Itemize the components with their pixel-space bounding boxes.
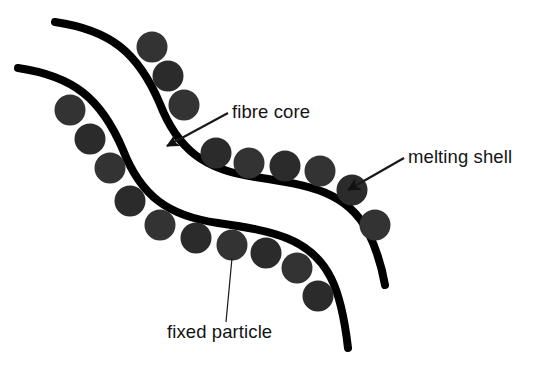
particle-upper-chain	[337, 175, 368, 206]
particle-upper-chain	[305, 156, 336, 187]
particle-upper-chain	[137, 32, 168, 63]
particle-lower-chain	[217, 230, 248, 261]
particle-lower-chain	[181, 223, 212, 254]
figure-canvas: fibre core melting shell fixed particle	[0, 0, 539, 367]
particle-upper-chain	[153, 61, 184, 92]
particle-lower-chain	[115, 186, 146, 217]
label-fibre-core: fibre core	[232, 101, 310, 122]
label-fixed-particle: fixed particle	[167, 321, 272, 342]
fibre-particle-diagram: fibre core melting shell fixed particle	[0, 0, 539, 367]
particle-upper-chain	[360, 210, 391, 241]
particle-lower-chain	[95, 153, 126, 184]
particle-lower-chain	[145, 210, 176, 241]
label-melting-shell: melting shell	[408, 146, 512, 167]
particle-lower-chain	[282, 253, 313, 284]
particle-upper-chain	[234, 148, 265, 179]
particle-lower-chain	[251, 238, 282, 269]
particle-lower-chain	[75, 124, 106, 155]
particle-upper-chain	[201, 138, 232, 169]
particle-upper-chain	[270, 151, 301, 182]
particle-upper-chain	[169, 90, 200, 121]
particle-lower-chain	[55, 95, 86, 126]
particle-lower-chain	[303, 281, 334, 312]
diagram-background	[0, 0, 539, 367]
